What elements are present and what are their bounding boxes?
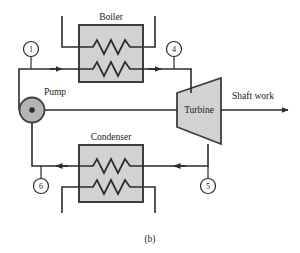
pipe-turbine-to-condenser — [143, 144, 208, 166]
pump-hub-dot — [29, 107, 35, 113]
turbine-group: Turbine — [177, 78, 221, 144]
boiler-group: Boiler — [62, 12, 155, 82]
state-4-label: 4 — [172, 45, 176, 54]
boiler-body — [79, 25, 143, 82]
pipe-boiler-to-turbine — [143, 69, 191, 93]
shaft-work-label: Shaft work — [232, 91, 274, 101]
figure-caption: (b) — [144, 234, 155, 245]
state-point-4: 4 — [167, 42, 182, 70]
pump-label: Pump — [44, 87, 66, 97]
rankine-cycle-diagram: Boiler Turbine Shaft work Condenser — [0, 0, 300, 253]
pump-group: Pump — [20, 87, 67, 123]
condenser-group: Condenser — [62, 132, 155, 213]
state-point-5: 5 — [201, 166, 216, 194]
state-point-1: 1 — [24, 42, 39, 70]
state-1-label: 1 — [29, 45, 33, 54]
state-5-label: 5 — [206, 182, 210, 191]
condenser-label: Condenser — [91, 132, 132, 142]
state-6-label: 6 — [39, 182, 43, 191]
condenser-body — [79, 145, 143, 202]
pipe-condenser-to-pump — [32, 122, 79, 166]
figure-canvas: Boiler Turbine Shaft work Condenser — [0, 0, 300, 253]
shaft-work-group: Shaft work — [221, 91, 288, 110]
boiler-label: Boiler — [99, 12, 124, 22]
state-point-6: 6 — [34, 166, 49, 194]
turbine-label: Turbine — [184, 105, 214, 115]
